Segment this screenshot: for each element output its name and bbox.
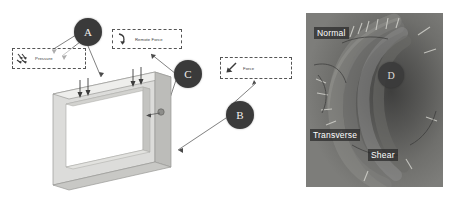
callout-pressure[interactable]: Pressure bbox=[12, 48, 86, 69]
diagonal-arrow-icon bbox=[221, 58, 241, 78]
bent-arrow-icon bbox=[113, 30, 133, 48]
badge-b[interactable]: B bbox=[226, 101, 254, 129]
badge-a[interactable]: A bbox=[74, 18, 102, 46]
contour-tag-shear: Shear bbox=[368, 149, 398, 161]
callout-force-label: Force bbox=[241, 66, 254, 71]
callout-remote-force[interactable]: Remote Force bbox=[112, 29, 182, 49]
contour-tag-transverse: Transverse bbox=[310, 129, 360, 141]
pressure-arrows-icon bbox=[13, 49, 33, 68]
contour-photo-panel: Normal Transverse Shear bbox=[306, 13, 443, 187]
callout-pressure-label: Pressure bbox=[33, 56, 53, 61]
frame-window-right-ledge bbox=[143, 87, 150, 152]
badge-c[interactable]: C bbox=[174, 60, 202, 88]
callout-remote-force-label: Remote Force bbox=[133, 37, 163, 42]
frame-right-side-face bbox=[155, 72, 171, 167]
callout-force[interactable]: Force bbox=[220, 57, 292, 79]
badge-d[interactable]: D bbox=[378, 62, 404, 88]
figure-root: Pressure Remote Force Force A C B bbox=[0, 0, 452, 198]
contour-tag-normal: Normal bbox=[314, 27, 349, 39]
